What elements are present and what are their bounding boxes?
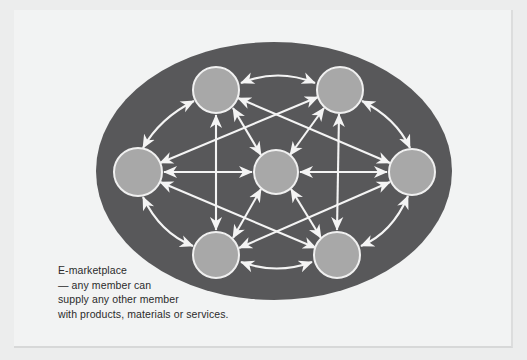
caption-line-3: supply any other member bbox=[58, 292, 318, 307]
node-bottom-right[interactable] bbox=[314, 232, 360, 278]
node-top-right[interactable] bbox=[317, 67, 363, 113]
caption-line-4: with products, materials or services. bbox=[58, 307, 318, 322]
diagram-caption: E-marketplace — any member can supply an… bbox=[58, 263, 318, 321]
node-center[interactable] bbox=[254, 150, 298, 194]
caption-line-2: — any member can bbox=[58, 278, 318, 293]
screenshot-root: E-marketplace — any member can supply an… bbox=[0, 0, 527, 360]
caption-line-1: E-marketplace bbox=[58, 263, 318, 278]
node-left[interactable] bbox=[114, 148, 162, 196]
node-top-left[interactable] bbox=[193, 67, 239, 113]
node-right[interactable] bbox=[389, 149, 435, 195]
